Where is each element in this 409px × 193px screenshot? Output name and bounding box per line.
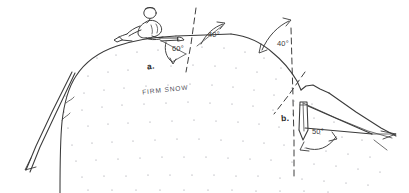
snow-mass-group [55,30,400,193]
sketch-figure: a. b. FIRM SNOW 60° 40° 40° 50° [0,0,409,193]
label-part-a: a. [146,61,155,72]
angle-label-crest: 40° [277,39,289,48]
sketch-canvas [0,0,409,193]
snow-stipple-texture [55,30,400,193]
angle-label-upper-right: 40° [208,30,220,39]
angle-label-left-slope: 60° [172,44,184,53]
label-part-b: b. [281,113,290,124]
angle-label-lower-right: 50° [312,127,324,136]
